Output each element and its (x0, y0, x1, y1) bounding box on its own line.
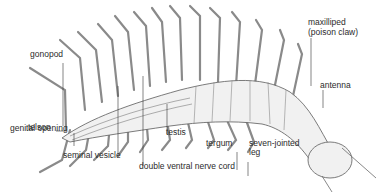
label-gonopod: gonopod (30, 50, 63, 59)
label-seminal-vesicle: seminal vesicle (63, 151, 121, 160)
label-maxilliped-line1: maxilliped (308, 18, 346, 27)
label-genital-opening-text: genital opening (10, 124, 68, 133)
label-double-ventral-nerve-cord: double ventral nerve cord (139, 162, 235, 171)
label-antenna: antenna (320, 81, 351, 90)
label-testis: testis (166, 128, 186, 137)
label-tergum: tergum (206, 139, 232, 148)
label-seven-jointed-leg-line2: leg (249, 148, 260, 157)
label-maxilliped-line2: (poison claw) (308, 28, 358, 37)
